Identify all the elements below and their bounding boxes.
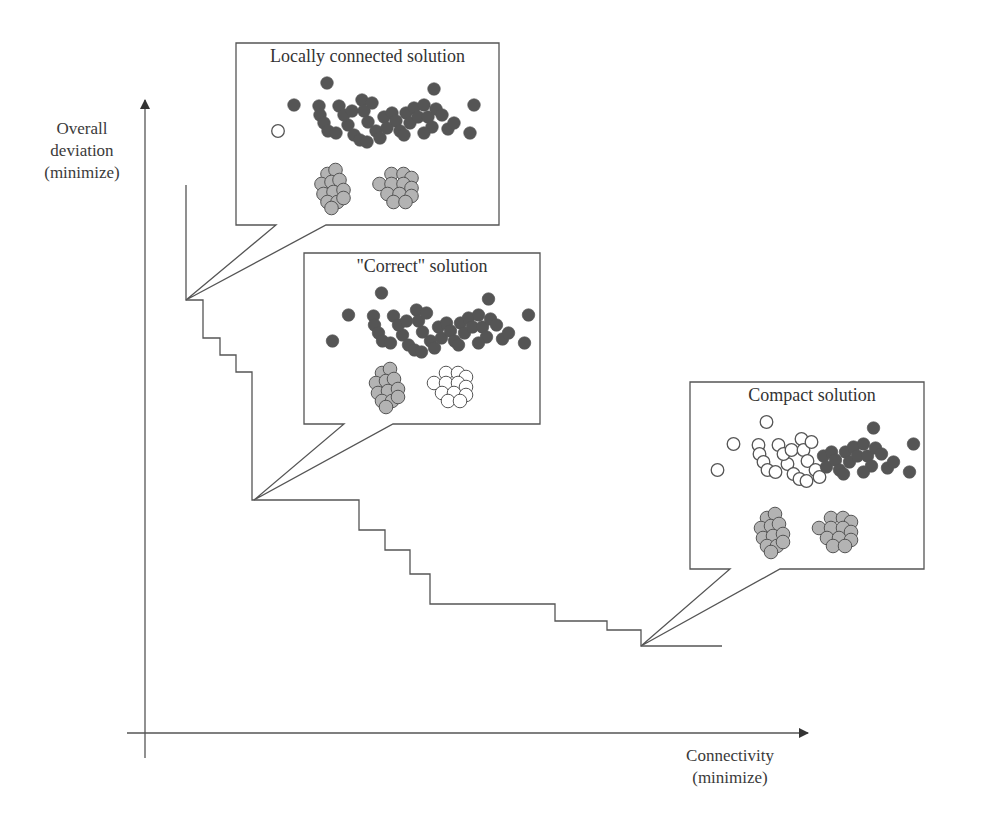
y-axis-label-line-3: (minimize) bbox=[22, 162, 142, 184]
callout-correct bbox=[254, 253, 540, 500]
data-point bbox=[727, 438, 740, 451]
data-point bbox=[346, 105, 359, 118]
data-point bbox=[452, 339, 465, 352]
data-point bbox=[326, 335, 339, 348]
data-point bbox=[785, 444, 798, 457]
data-point bbox=[330, 127, 343, 140]
x-axis-label: Connectivity (minimize) bbox=[660, 745, 800, 789]
data-point bbox=[907, 438, 920, 451]
y-axis-label-line-2: deviation bbox=[22, 140, 142, 162]
data-point bbox=[502, 327, 515, 340]
data-point bbox=[342, 309, 355, 322]
data-point bbox=[760, 416, 773, 429]
data-point bbox=[857, 466, 870, 479]
data-point bbox=[711, 464, 724, 477]
data-point bbox=[415, 346, 428, 359]
data-point bbox=[776, 535, 790, 549]
data-point bbox=[448, 117, 461, 130]
data-point bbox=[375, 287, 388, 300]
data-point bbox=[800, 475, 813, 488]
data-point bbox=[384, 337, 397, 350]
data-point bbox=[903, 466, 916, 479]
callout-title-correct: "Correct" solution bbox=[304, 256, 540, 277]
data-point bbox=[321, 77, 334, 90]
data-point bbox=[875, 448, 888, 461]
data-point bbox=[522, 309, 535, 322]
data-point bbox=[769, 466, 782, 479]
data-point bbox=[490, 319, 503, 332]
data-point bbox=[288, 99, 301, 112]
data-point bbox=[468, 99, 481, 112]
data-point bbox=[764, 545, 778, 559]
data-point bbox=[838, 539, 852, 553]
data-point bbox=[436, 109, 449, 122]
y-axis-label-line-1: Overall bbox=[22, 118, 142, 140]
data-point bbox=[518, 337, 531, 350]
data-point bbox=[366, 97, 379, 110]
data-point bbox=[482, 293, 495, 306]
data-point bbox=[398, 129, 411, 142]
data-point bbox=[472, 309, 485, 322]
data-point bbox=[325, 201, 339, 215]
data-point bbox=[418, 99, 431, 112]
callouts bbox=[186, 43, 924, 646]
data-point bbox=[805, 436, 818, 449]
data-point bbox=[418, 127, 431, 140]
pareto-front-diagram bbox=[0, 0, 1000, 829]
callout-compact bbox=[641, 382, 924, 646]
data-point bbox=[867, 422, 880, 435]
callout-box-compact bbox=[641, 382, 924, 646]
data-point bbox=[464, 127, 477, 140]
x-axis-label-line-2: (minimize) bbox=[660, 767, 800, 789]
data-point bbox=[391, 390, 405, 404]
data-point bbox=[337, 191, 351, 205]
data-point bbox=[399, 195, 413, 209]
data-point bbox=[428, 83, 441, 96]
data-point bbox=[272, 125, 285, 138]
data-point bbox=[837, 468, 850, 481]
y-axis-label: Overall deviation (minimize) bbox=[22, 118, 142, 184]
data-point bbox=[472, 337, 485, 350]
data-point bbox=[453, 394, 467, 408]
x-axis-label-line-1: Connectivity bbox=[660, 745, 800, 767]
data-point bbox=[400, 315, 413, 328]
data-point bbox=[379, 400, 393, 414]
data-point bbox=[887, 456, 900, 469]
data-point bbox=[361, 136, 374, 149]
callout-title-locally-connected: Locally connected solution bbox=[236, 46, 499, 67]
data-point bbox=[857, 438, 870, 451]
data-point bbox=[420, 307, 433, 320]
callout-title-compact: Compact solution bbox=[700, 385, 924, 406]
